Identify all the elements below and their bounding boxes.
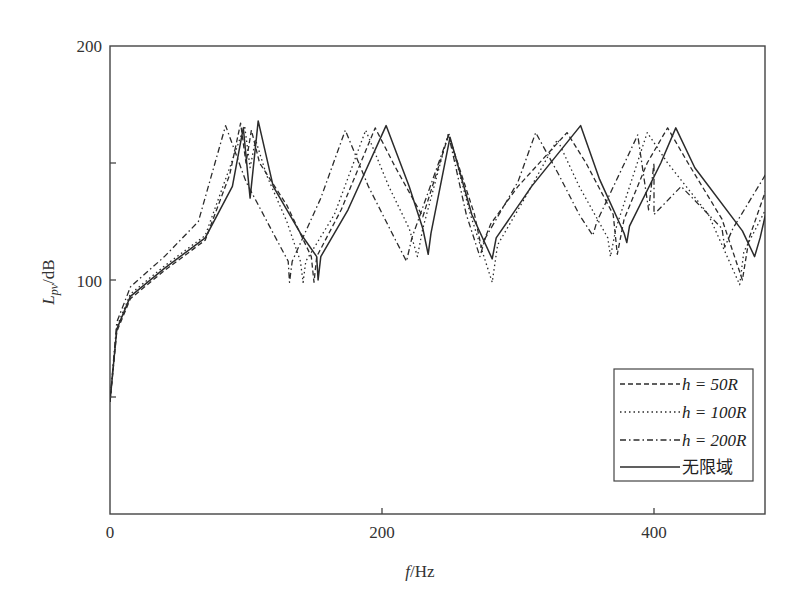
series-dash-dot (110, 126, 766, 402)
legend-label-200r: h = 200R (682, 431, 747, 450)
axis-ticks (110, 163, 654, 514)
legend-label-50r: h = 50R (682, 375, 738, 394)
x-axis-label-unit: /Hz (410, 562, 435, 581)
series-dotted (110, 126, 766, 402)
y-axis-label: Lpv/dB (39, 259, 61, 305)
y-tick-label-200: 200 (77, 37, 103, 56)
y-tick-label-100: 100 (77, 272, 103, 291)
x-tick-label-0: 0 (106, 523, 115, 542)
x-axis-label: f/Hz (405, 562, 435, 581)
y-axis-label-var: L (39, 295, 58, 305)
chart: 100 200 0 200 400 f/Hz Lpv/dB h = 50R h … (0, 0, 796, 614)
legend-label-100r: h = 100R (682, 403, 747, 422)
series-group (110, 121, 766, 402)
x-tick-label-400: 400 (641, 523, 667, 542)
y-axis-label-unit: /dB (39, 259, 58, 284)
legend: h = 50R h = 100R h = 200R 无限域 (614, 369, 753, 481)
y-axis-label-sub: pv (47, 283, 61, 296)
legend-label-infinite: 无限域 (682, 458, 733, 477)
x-tick-label-200: 200 (369, 523, 395, 542)
